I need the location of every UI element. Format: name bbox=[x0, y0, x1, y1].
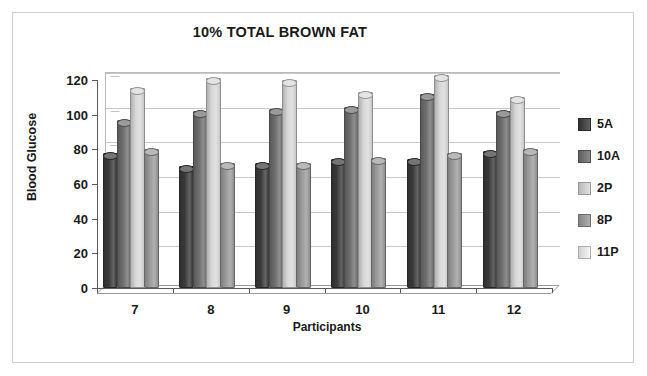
bar-2P-10[interactable] bbox=[358, 94, 371, 288]
x-tick-mark bbox=[552, 288, 553, 293]
x-tick-label: 8 bbox=[207, 302, 214, 317]
legend-swatch-5A bbox=[578, 118, 591, 131]
bar-cap bbox=[371, 157, 386, 165]
y-tick-label: 80 bbox=[74, 142, 88, 157]
x-tick-label: 10 bbox=[355, 302, 369, 317]
plot-area: 020406080100120 789101112 bbox=[97, 80, 552, 288]
y-tick-label: 100 bbox=[66, 107, 88, 122]
bar-8P-9[interactable] bbox=[296, 165, 309, 288]
x-tick-mark bbox=[97, 288, 98, 293]
bar-10A-11[interactable] bbox=[420, 96, 433, 288]
bar-cap bbox=[358, 91, 373, 99]
bar-cap bbox=[434, 74, 449, 82]
bar-2P-12[interactable] bbox=[510, 99, 523, 288]
bar-group bbox=[325, 80, 401, 288]
chart-figure: 10% TOTAL BROWN FAT Blood Glucose Partic… bbox=[0, 0, 647, 376]
bar-5A-7[interactable] bbox=[103, 155, 116, 288]
bar-5A-12[interactable] bbox=[483, 153, 496, 288]
bar-2P-7[interactable] bbox=[130, 90, 143, 288]
legend-item-8P[interactable]: 8P bbox=[578, 204, 642, 236]
legend-item-5A[interactable]: 5A bbox=[578, 108, 642, 140]
legend-item-2P[interactable]: 2P bbox=[578, 172, 642, 204]
x-tick-label: 9 bbox=[283, 302, 290, 317]
bar-5A-9[interactable] bbox=[255, 165, 268, 288]
bar-group bbox=[97, 80, 173, 288]
x-tick-label: 11 bbox=[431, 302, 445, 317]
bar-2P-11[interactable] bbox=[434, 77, 447, 288]
x-tick-mark bbox=[476, 288, 477, 293]
legend-label: 8P bbox=[597, 213, 612, 227]
bar-10A-8[interactable] bbox=[193, 113, 206, 288]
chart-legend: 5A10A2P8P11P bbox=[578, 108, 642, 268]
legend-item-10A[interactable]: 10A bbox=[578, 140, 642, 172]
bar-10A-9[interactable] bbox=[269, 111, 282, 288]
legend-swatch-10A bbox=[578, 150, 591, 163]
legend-label: 11P bbox=[597, 245, 619, 259]
legend-label: 10A bbox=[597, 149, 620, 163]
x-tick-label: 12 bbox=[507, 302, 521, 317]
bar-cap bbox=[510, 96, 525, 104]
bar-cap bbox=[144, 148, 159, 156]
bar-2P-8[interactable] bbox=[206, 80, 219, 288]
gridline bbox=[106, 73, 560, 74]
bar-body bbox=[447, 153, 462, 288]
legend-swatch-8P bbox=[578, 214, 591, 227]
bar-group bbox=[173, 80, 249, 288]
bar-8P-12[interactable] bbox=[523, 151, 536, 288]
y-tick-label: 120 bbox=[66, 73, 88, 88]
bar-cap bbox=[282, 79, 297, 87]
bar-body bbox=[523, 149, 538, 288]
legend-swatch-2P bbox=[578, 182, 591, 195]
y-tick-label: 0 bbox=[81, 281, 88, 296]
x-tick-label: 7 bbox=[131, 302, 138, 317]
bar-10A-7[interactable] bbox=[117, 122, 130, 288]
x-axis-title: Participants bbox=[92, 320, 562, 334]
bar-group bbox=[249, 80, 325, 288]
x-tick-mark bbox=[400, 288, 401, 293]
y-tick-label: 60 bbox=[74, 177, 88, 192]
bar-5A-11[interactable] bbox=[407, 161, 420, 288]
bar-10A-12[interactable] bbox=[496, 113, 509, 288]
y-tick-label: 20 bbox=[74, 246, 88, 261]
bar-2P-9[interactable] bbox=[282, 82, 295, 288]
bar-5A-8[interactable] bbox=[179, 168, 192, 288]
y-tick-label: 40 bbox=[74, 211, 88, 226]
bar-8P-11[interactable] bbox=[447, 155, 460, 288]
bar-cap bbox=[220, 162, 235, 170]
y-axis-title: Blood Glucose bbox=[25, 97, 39, 217]
bar-cap bbox=[296, 162, 311, 170]
bar-8P-10[interactable] bbox=[371, 160, 384, 288]
bar-8P-7[interactable] bbox=[144, 151, 157, 288]
bar-body bbox=[371, 158, 386, 288]
legend-label: 5A bbox=[597, 117, 613, 131]
bar-cap bbox=[447, 152, 462, 160]
x-tick-mark bbox=[173, 288, 174, 293]
bar-group bbox=[400, 80, 476, 288]
bar-body bbox=[296, 163, 311, 288]
chart-title: 10% TOTAL BROWN FAT bbox=[0, 24, 560, 40]
bar-5A-10[interactable] bbox=[331, 161, 344, 288]
legend-label: 2P bbox=[597, 181, 612, 195]
legend-swatch-11P bbox=[578, 246, 591, 259]
bar-8P-8[interactable] bbox=[220, 165, 233, 288]
bar-group bbox=[476, 80, 552, 288]
bar-body bbox=[144, 149, 159, 288]
x-tick-mark bbox=[325, 288, 326, 293]
bar-body bbox=[220, 163, 235, 288]
x-tick-mark bbox=[249, 288, 250, 293]
legend-item-11P[interactable]: 11P bbox=[578, 236, 642, 268]
bar-10A-10[interactable] bbox=[344, 109, 357, 288]
